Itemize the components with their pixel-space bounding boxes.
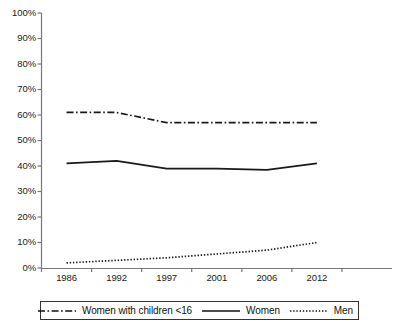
legend-label: Women: [241, 305, 289, 316]
legend-label: Men: [329, 305, 362, 316]
x-axis-tick-label: 1992: [94, 272, 140, 283]
legend-item-women: Women: [201, 305, 289, 316]
x-axis-tick-label: 2006: [244, 272, 290, 283]
chart-legend: Women with children <16 Women Men: [40, 301, 359, 320]
dash-dot-line-icon: [37, 306, 77, 316]
x-axis-tick-label: 1997: [144, 272, 190, 283]
solid-line-icon: [201, 306, 241, 316]
legend-label: Women with children <16: [77, 305, 201, 316]
x-axis-tick-label: 2001: [194, 272, 240, 283]
dotted-line-icon: [289, 306, 329, 316]
line-chart: 0%10%20%30%40%50%60%70%80%90%100% 198619…: [0, 0, 399, 326]
x-axis-labels: 198619921997200120062012: [0, 0, 399, 300]
legend-item-women-with-children: Women with children <16: [37, 305, 201, 316]
x-axis-tick-label: 1986: [44, 272, 90, 283]
legend-item-men: Men: [289, 305, 362, 316]
x-axis-tick-label: 2012: [294, 272, 340, 283]
